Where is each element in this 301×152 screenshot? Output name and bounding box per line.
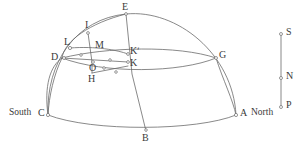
point-label-E: E <box>122 2 128 12</box>
point-marker-N <box>280 77 283 80</box>
point-marker-G <box>215 57 218 60</box>
point-label-M: M <box>95 40 104 50</box>
point-marker-P <box>280 106 283 109</box>
point-label-D: D <box>51 52 58 62</box>
point-label-C: C <box>38 108 45 118</box>
point-label-P: P <box>286 100 292 110</box>
tick-marker-4 <box>115 71 118 74</box>
point-label-G: G <box>219 50 226 60</box>
point-label-K-prime: Kʹ <box>130 46 139 56</box>
diagram-canvas <box>0 0 301 152</box>
horizon-front-arc <box>48 115 236 127</box>
horizon-right-descender <box>216 58 236 115</box>
point-marker-A <box>234 113 237 116</box>
point-marker-B <box>145 129 148 132</box>
tick-marker-1 <box>80 54 83 57</box>
point-label-H: H <box>88 74 95 84</box>
point-marker-Kprime <box>127 53 130 56</box>
point-label-O: O <box>89 63 96 73</box>
point-marker-I <box>87 32 90 35</box>
hour-circle-EB-line <box>126 14 146 131</box>
point-marker-K <box>127 61 130 64</box>
meridian-upper-arc <box>62 14 126 58</box>
point-label-I: I <box>85 20 88 30</box>
point-label-A: A <box>240 108 247 118</box>
point-label-L: L <box>64 37 70 47</box>
prime-vertical-back-arc <box>47 58 62 115</box>
tick-marker-2 <box>109 59 112 62</box>
point-marker-D <box>63 57 66 60</box>
point-marker-S <box>280 33 283 36</box>
direction-label-south: South <box>9 108 31 118</box>
tick-marker-3 <box>103 67 106 70</box>
point-marker-C <box>46 113 49 116</box>
point-marker-E <box>125 13 128 16</box>
point-label-S: S <box>286 27 292 37</box>
point-label-B: B <box>142 133 149 143</box>
point-label-N: N <box>286 71 293 81</box>
point-label-K: K <box>130 58 137 68</box>
dome-outline-curve <box>48 14 236 115</box>
celestial-sphere-figure: E I L M D Kʹ K O G H C A B S N P South N… <box>0 0 301 152</box>
direction-label-north: North <box>251 108 273 118</box>
